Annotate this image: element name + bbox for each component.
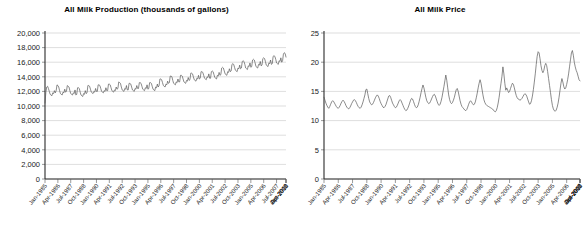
milk-statistics-figure: All Milk Production (thousands of gallon… [0,0,587,239]
chart-panel-price: All Milk Price 2520151050Jan-1985Apr-198… [293,0,587,239]
y-axis-tick-label: 0 [36,175,40,184]
y-axis-tick-label: 14,000 [17,73,40,82]
y-axis-tick-label: 2,000 [21,160,40,169]
data-series-line [324,51,580,112]
y-axis-tick-label: 25 [311,29,319,38]
y-axis-tick-label: 18,000 [17,43,40,52]
data-series-line [45,53,286,103]
y-axis-tick-label: 8,000 [21,116,40,125]
y-axis-tick-label: 0 [315,175,319,184]
price-plot: 2520151050Jan-1985Apr-1986Jul-1987Oct-19… [293,0,587,239]
production-plot: 20,00018,00016,00014,00012,00010,0008,00… [0,0,293,239]
y-axis-tick-label: 15 [311,87,319,96]
y-axis-tick-label: 4,000 [21,146,40,155]
y-axis-tick-label: 16,000 [17,58,40,67]
y-axis-tick-label: 20 [311,58,319,67]
y-axis-tick-label: 10 [311,116,319,125]
y-axis-tick-label: 12,000 [17,87,40,96]
y-axis-tick-label: 6,000 [21,131,40,140]
y-axis-tick-label: 20,000 [17,29,40,38]
y-axis-tick-label: 10,000 [17,102,40,111]
chart-panel-production: All Milk Production (thousands of gallon… [0,0,293,239]
y-axis-tick-label: 5 [315,146,319,155]
